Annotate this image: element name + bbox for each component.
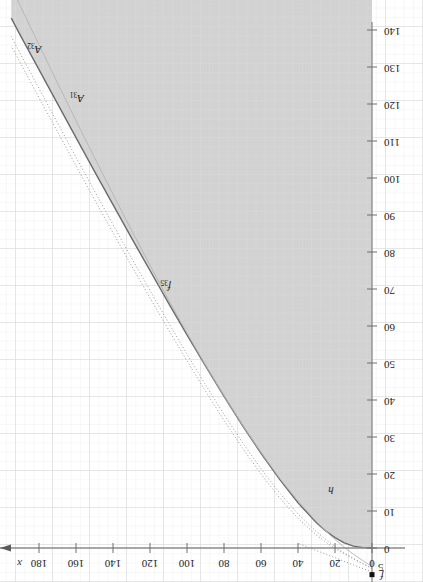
y-tick-label: 20	[384, 470, 408, 482]
plot-svg	[0, 0, 423, 582]
figure-canvas: 0102030405060708090100110120130140 02040…	[0, 0, 423, 582]
x-tick-label: 120	[130, 558, 170, 570]
x-axis-name: x	[17, 558, 22, 570]
y-tick-label: 50	[384, 359, 408, 371]
x-tick-label: 80	[204, 558, 244, 570]
major-gridlines-overlay	[0, 0, 423, 582]
y-tick-label: 140	[384, 26, 408, 38]
y-tick-label: 40	[384, 396, 408, 408]
curve-label-f: f	[381, 570, 384, 582]
curve-label-h: h	[328, 485, 334, 497]
curve-label-A31: A31	[70, 89, 84, 104]
y-tick-label: 110	[384, 137, 408, 149]
y-tick-label: 100	[384, 174, 408, 186]
x-tick-label: 60	[241, 558, 281, 570]
y-tick-label: 80	[384, 248, 408, 260]
y-tick-label: 120	[384, 100, 408, 112]
x-tick-label: 180	[19, 558, 59, 570]
y-tick-label: 130	[384, 63, 408, 75]
rotated-figure-wrapper: 0102030405060708090100110120130140 02040…	[0, 0, 423, 582]
x-tick-label: 20	[315, 558, 355, 570]
x-tick-label: 100	[167, 558, 207, 570]
origin-square-marker	[370, 572, 375, 577]
x-tick-label: 140	[93, 558, 133, 570]
y-tick-label: 60	[384, 322, 408, 334]
plot-area: 0102030405060708090100110120130140 02040…	[0, 0, 423, 582]
y-tick-label: 10	[384, 507, 408, 519]
y-tick-label: 90	[384, 211, 408, 223]
curve-label-f35: f35	[160, 278, 171, 293]
y-tick-label: 0	[384, 544, 408, 556]
x-tick-label: 160	[56, 558, 96, 570]
curve-label-A32: A32	[27, 41, 41, 56]
y-tick-label: 30	[384, 433, 408, 445]
x-tick-label: 40	[278, 558, 318, 570]
y-tick-label: 70	[384, 285, 408, 297]
